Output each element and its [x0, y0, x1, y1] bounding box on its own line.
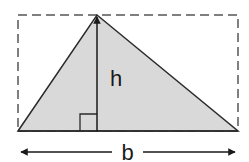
triangle	[18, 15, 238, 131]
base-label: b	[121, 140, 133, 162]
triangle-area-diagram: h b	[0, 0, 249, 162]
height-label: h	[110, 66, 122, 91]
